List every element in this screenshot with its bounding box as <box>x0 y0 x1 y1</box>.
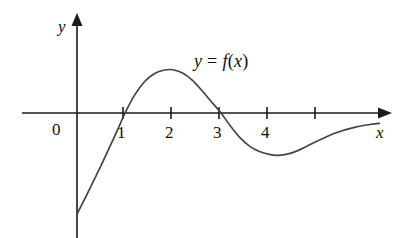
curve-annotation-label: y = f(x) <box>194 52 249 70</box>
x-tick-label-2: 2 <box>165 124 174 141</box>
x-tick-label-4: 4 <box>261 124 270 141</box>
x-tick-label-3: 3 <box>213 124 222 141</box>
function-graph-figure: y x 0 1 2 3 4 y = f(x) <box>0 0 410 238</box>
curve-label-equals: = <box>207 51 217 71</box>
x-tick-label-1: 1 <box>117 124 126 141</box>
y-axis-arrowhead <box>72 13 83 26</box>
origin-label: 0 <box>52 121 61 138</box>
y-axis-label: y <box>58 18 66 35</box>
curve-label-paren-close: ) <box>242 51 248 71</box>
x-axis-arrowhead <box>378 108 392 119</box>
x-axis-label: x <box>376 124 384 141</box>
